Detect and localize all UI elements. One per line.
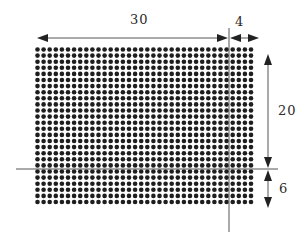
dimension-arrow-height-6	[264, 170, 272, 208]
label-width-4: 4	[235, 15, 244, 28]
label-height-6: 6	[279, 182, 288, 195]
dot-matrix	[35, 47, 253, 204]
label-height-20: 20	[278, 104, 297, 117]
dot-grid-diagram	[0, 0, 308, 241]
label-width-30: 30	[130, 13, 149, 26]
dimension-arrow-width-4	[230, 34, 259, 42]
dimension-arrow-width-30	[37, 34, 228, 42]
dimension-arrow-height-20	[264, 54, 272, 168]
